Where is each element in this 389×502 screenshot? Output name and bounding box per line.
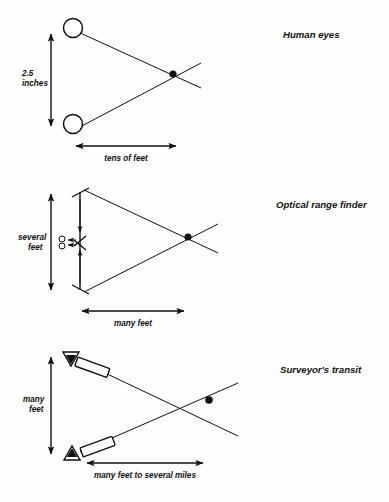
eye-circle-upper — [64, 19, 83, 38]
distance-label: tens of feet — [104, 154, 148, 163]
figure-background — [0, 0, 389, 502]
convergence-dot — [184, 233, 191, 240]
eye-circle-lower — [64, 115, 83, 134]
baseline-dimension-label-line2: feet — [29, 405, 44, 414]
distance-label: many feet to several miles — [94, 471, 196, 480]
convergence-dot — [169, 70, 176, 77]
baseline-dimension-label-line2: inches — [22, 79, 48, 88]
triangulation-scale-figure: 2.5 inches tens of feet Human eyes sever… — [0, 0, 389, 502]
distance-label: many feet — [114, 319, 152, 328]
panel-caption-human-eyes: Human eyes — [283, 29, 340, 40]
baseline-dimension-label-line1: several — [18, 233, 47, 242]
panel-caption-surveyors-transit: Surveyor's transit — [280, 364, 362, 375]
baseline-dimension-label-line1: many — [23, 395, 45, 404]
baseline-dimension-label-line2: feet — [28, 243, 43, 252]
panel-caption-optical-range-finder: Optical range finder — [276, 199, 368, 210]
convergence-dot — [205, 396, 213, 404]
figure-page: 2.5 inches tens of feet Human eyes sever… — [0, 0, 389, 502]
baseline-dimension-label-line1: 2.5 — [21, 69, 34, 78]
